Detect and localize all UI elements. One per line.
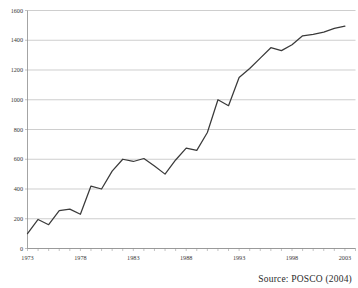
y-tick-label: 1400 [11,36,23,43]
x-tick-label: 1993 [233,254,245,261]
y-tick-label: 1200 [11,66,23,73]
y-tick-label: 200 [14,215,23,222]
x-tick-label: 1983 [127,254,139,261]
chart-canvas: 02004006008001000120014001600 1973197819… [0,0,358,288]
y-tick-label: 800 [14,126,23,133]
x-tick-label: 1988 [180,254,192,261]
x-tick-label: 2003 [339,254,351,261]
source-note: Source: POSCO (2004) [258,274,352,284]
y-axis-tick-labels: 02004006008001000120014001600 [11,7,23,252]
x-axis-tick-labels: 1973197819831988199319982003 [21,254,351,261]
gridlines [25,11,356,249]
data-series-line [28,26,345,234]
x-tick-label: 1998 [286,254,298,261]
y-tick-label: 0 [20,245,23,252]
x-tick-label: 1973 [21,254,33,261]
y-tick-label: 1600 [11,7,23,14]
x-tick-label: 1978 [74,254,86,261]
line-chart: 02004006008001000120014001600 1973197819… [0,0,358,288]
y-tick-label: 600 [14,155,23,162]
y-tick-label: 1000 [11,96,23,103]
y-tick-label: 400 [14,185,23,192]
